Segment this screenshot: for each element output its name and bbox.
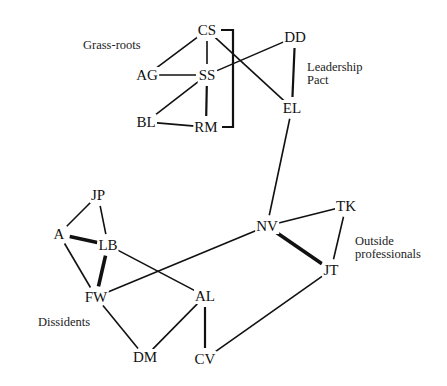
edge-jp-a <box>67 203 90 226</box>
node-jp: JP <box>90 187 106 203</box>
node-tk: TK <box>335 198 357 214</box>
edge-ss-bl <box>155 82 199 116</box>
edge-cs-ag <box>156 37 198 69</box>
edge-nv-jt <box>276 232 322 264</box>
node-dm: DM <box>132 349 158 365</box>
node-ss: SS <box>198 67 217 83</box>
node-rm: RM <box>193 119 218 135</box>
node-dd: DD <box>283 29 307 45</box>
group-label-grass-roots: Grass-roots <box>83 39 141 52</box>
group-label-leadership-pact: Leadership Pact <box>307 61 363 87</box>
node-fw: FW <box>84 289 109 305</box>
edge-nv-tk <box>278 209 336 224</box>
node-lb: LB <box>97 237 118 253</box>
network-diagram: Grass-rootsLeadership PactOutside profes… <box>0 0 447 386</box>
node-bl: BL <box>135 114 156 130</box>
group-label-dissidents: Dissidents <box>38 316 90 329</box>
edge-jt-cv <box>214 276 322 352</box>
node-cs: CS <box>197 22 217 38</box>
edge-el-nv <box>269 119 289 215</box>
node-a: A <box>53 226 66 242</box>
group-label-outside-professionals: Outside professionals <box>355 235 421 261</box>
edge-jp-lb <box>100 206 106 234</box>
node-ag: AG <box>135 67 159 83</box>
node-al: AL <box>194 288 216 304</box>
edge-tk-jt <box>334 217 344 260</box>
edge-a-lb <box>70 236 98 242</box>
node-jt: JT <box>323 262 340 278</box>
node-cv: CV <box>194 351 217 367</box>
edge-bl-rm <box>157 123 195 126</box>
edge-a-fw <box>65 243 91 287</box>
node-el: EL <box>282 100 302 116</box>
edge-ss-rm <box>206 86 207 116</box>
edge-dd-el <box>292 48 294 97</box>
edge-lb-fw <box>98 256 105 287</box>
node-nv: NV <box>255 218 279 234</box>
edge-ss-dd <box>217 41 285 70</box>
edge-al-dm <box>153 304 198 349</box>
edge-lb-al <box>118 250 196 291</box>
edge-fw-dm <box>103 306 138 349</box>
